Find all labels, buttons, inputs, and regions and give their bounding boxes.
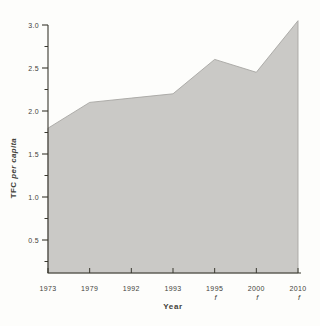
y-tick-label: 1.5	[28, 151, 39, 158]
y-axis-title-units: per capita	[9, 138, 18, 179]
x-tick-label: 1993	[164, 285, 181, 292]
area-series	[48, 21, 298, 273]
y-axis-title-acronym: TFC	[9, 182, 18, 198]
x-tick-label: 1973	[39, 285, 56, 292]
forecast-flag-label: f	[215, 293, 218, 302]
x-tick-label: 2000	[248, 285, 265, 292]
x-axis-title: Year	[48, 302, 298, 311]
y-tick-label: 0.5	[28, 237, 39, 244]
area-chart-canvas: 0.51.01.52.02.53.019731979199219931995f2…	[0, 0, 320, 326]
tfc-per-capita-area-chart: 0.51.01.52.02.53.019731979199219931995f2…	[0, 0, 320, 326]
y-tick-label: 1.0	[28, 194, 39, 201]
y-tick-label: 2.5	[28, 65, 39, 72]
y-tick-label: 2.0	[28, 108, 39, 115]
x-tick-label: 1992	[123, 285, 140, 292]
forecast-flag-label: f	[298, 293, 301, 302]
x-tick-label: 2010	[289, 285, 306, 292]
forecast-flag-label: f	[256, 293, 259, 302]
y-axis-title: TFCper capita	[9, 138, 18, 198]
y-tick-label: 3.0	[28, 22, 39, 29]
x-tick-label: 1995	[206, 285, 223, 292]
x-tick-label: 1979	[81, 285, 98, 292]
